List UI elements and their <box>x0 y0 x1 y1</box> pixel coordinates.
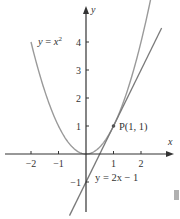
tangent-line <box>70 28 162 216</box>
x-axis-label: x <box>167 136 173 147</box>
ticks-layer: −2−112−11234 <box>26 37 144 188</box>
y-tick-label: 2 <box>76 93 81 104</box>
point-p-marker <box>112 124 116 128</box>
corner-marker <box>174 190 179 200</box>
y-tick-label: 3 <box>76 65 81 76</box>
chart: x y −2−112−11234 y = x2 y = 2x − 1 P(1, … <box>0 0 180 219</box>
point-p-label: P(1, 1) <box>119 121 148 133</box>
x-tick-label: 1 <box>111 158 116 169</box>
curves-layer <box>31 0 162 216</box>
x-tick-label: −1 <box>53 158 64 169</box>
y-tick-label: 4 <box>76 37 81 48</box>
x-tick-label: −2 <box>26 158 37 169</box>
y-tick-label: −1 <box>70 177 81 188</box>
y-axis-label: y <box>90 4 96 15</box>
y-tick-label: 1 <box>76 121 81 132</box>
tangent-line-label: y = 2x − 1 <box>95 172 138 183</box>
y-axis-arrow-icon <box>83 6 89 14</box>
x-axis-arrow-icon <box>166 151 174 157</box>
axes-layer: x y <box>5 4 174 212</box>
parabola-label: y = x2 <box>37 35 63 47</box>
x-tick-label: 2 <box>139 158 144 169</box>
